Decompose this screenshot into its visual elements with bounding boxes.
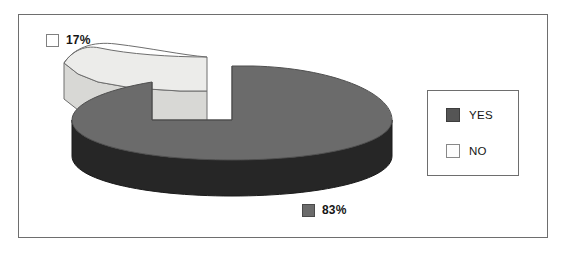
data-label-no: 17% xyxy=(46,33,91,47)
legend-item-yes[interactable]: YES xyxy=(446,108,518,122)
data-label-yes-value: 83% xyxy=(322,203,347,217)
data-label-yes-swatch xyxy=(302,204,315,217)
legend-swatch-no-icon xyxy=(446,144,460,158)
legend-swatch-yes-icon xyxy=(446,108,460,122)
data-label-no-swatch xyxy=(46,34,59,47)
legend-item-no[interactable]: NO xyxy=(446,144,518,158)
chart-legend: YES NO xyxy=(427,90,519,176)
pie-chart-figure: 17% 83% YES NO xyxy=(0,0,567,253)
data-label-no-value: 17% xyxy=(66,33,91,47)
data-label-yes: 83% xyxy=(302,203,347,217)
legend-label-yes: YES xyxy=(469,109,493,121)
legend-label-no: NO xyxy=(469,145,487,157)
